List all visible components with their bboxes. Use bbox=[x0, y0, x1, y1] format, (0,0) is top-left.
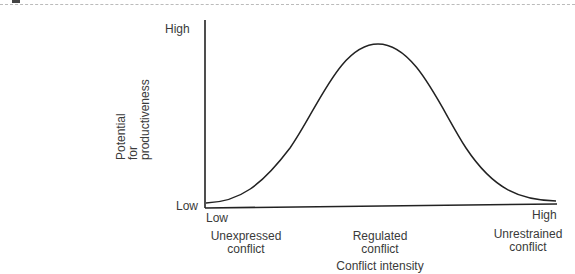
productivity-curve bbox=[206, 44, 556, 203]
y-low-label: Low bbox=[176, 200, 198, 213]
y-axis-title-line3: productiveness bbox=[139, 40, 151, 160]
x-high-label: High bbox=[532, 209, 557, 222]
category-regulated: Regulated conflict bbox=[330, 230, 430, 256]
x-low-label: Low bbox=[206, 212, 228, 225]
y-high-label: High bbox=[165, 23, 190, 36]
category-regulated-line2: conflict bbox=[330, 243, 430, 256]
x-axis-title: Conflict intensity bbox=[320, 260, 440, 273]
category-unrestrained: Unrestrained conflict bbox=[478, 228, 575, 254]
category-unexpressed-line2: conflict bbox=[196, 243, 296, 256]
y-axis-title-line1: Potential bbox=[115, 40, 127, 160]
x-axis bbox=[205, 204, 557, 208]
category-unrestrained-line2: conflict bbox=[478, 241, 575, 254]
category-unexpressed: Unexpressed conflict bbox=[196, 230, 296, 256]
y-axis-title: Potential for productiveness bbox=[115, 40, 151, 160]
